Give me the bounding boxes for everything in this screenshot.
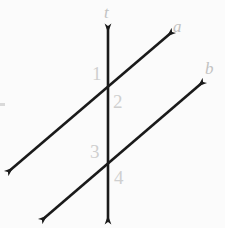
line-b-stroke — [42, 82, 203, 220]
geometry-figure: t a b 1 2 3 4 — [0, 0, 225, 228]
angle-label-2: 2 — [113, 92, 123, 111]
geometry-canvas — [0, 0, 225, 228]
angle-label-1: 1 — [92, 64, 102, 83]
angle-label-4: 4 — [114, 168, 124, 187]
line-label-b: b — [205, 60, 214, 77]
scan-edge-mark — [0, 103, 5, 106]
line-label-t: t — [104, 4, 109, 21]
line-label-a: a — [173, 18, 182, 35]
angle-label-3: 3 — [90, 142, 100, 161]
